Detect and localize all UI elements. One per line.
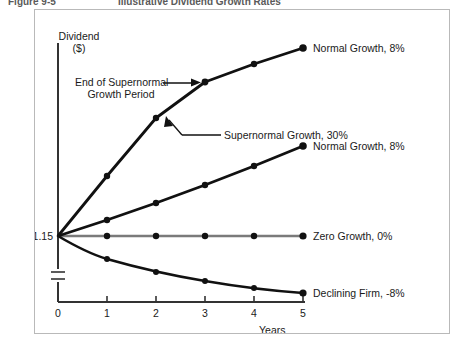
x-tick-label-1: 1 xyxy=(95,307,119,319)
y-axis-title-line2: ($) xyxy=(43,42,115,54)
chart-frame: Dividend ($) 1.15 0 1 2 3 4 5 Years End … xyxy=(34,9,450,334)
y-axis-base-value: 1.15 xyxy=(34,230,53,242)
annotation-end-supernormal-line1: End of Supernormal xyxy=(75,76,167,88)
annotation-leader-supernormal-diagonal xyxy=(169,120,182,135)
x-axis-title: Years xyxy=(259,324,285,334)
y-axis-title-line1: Dividend xyxy=(43,30,115,42)
figure-title-text: Illustrative Dividend Growth Rates xyxy=(118,0,281,7)
series-label-zero-growth: Zero Growth, 0% xyxy=(313,230,392,242)
x-tick-label-4: 4 xyxy=(242,307,266,319)
figure-caption-label: Figure 9-5 xyxy=(8,0,56,7)
series-declining-firm-line xyxy=(58,236,303,293)
series-label-normal-growth: Normal Growth, 8% xyxy=(313,140,405,152)
x-tick-label-0: 0 xyxy=(46,307,70,319)
figure-title-bar: Figure 9-5 Illustrative Dividend Growth … xyxy=(0,0,459,8)
series-label-supernormal-normal-growth: Normal Growth, 8% xyxy=(313,42,405,54)
annotation-end-supernormal-line2: Growth Period xyxy=(75,88,167,100)
annotation-leader-supernormal-head xyxy=(164,116,173,127)
x-tick-label-2: 2 xyxy=(144,307,168,319)
x-tick-label-3: 3 xyxy=(193,307,217,319)
series-label-declining-firm: Declining Firm, -8% xyxy=(313,287,405,299)
dividend-growth-plot xyxy=(35,10,449,333)
x-tick-label-5: 5 xyxy=(291,307,315,319)
series-supernormal-growth-markers xyxy=(104,44,307,179)
